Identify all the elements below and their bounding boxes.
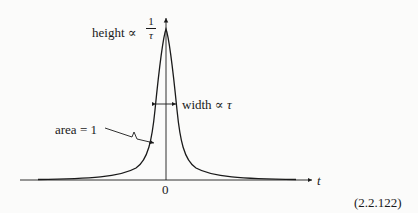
width-label: width ∝ τ — [182, 98, 232, 111]
area-pointer-arrow — [105, 128, 154, 143]
fraction-denominator: τ — [146, 29, 156, 41]
t-axis-label: t — [317, 174, 321, 187]
fraction-numerator: 1 — [146, 16, 156, 29]
width-label-variable: τ — [227, 97, 232, 112]
height-fraction: 1 τ — [146, 16, 156, 41]
origin-label: 0 — [162, 183, 169, 196]
height-label: height ∝ — [92, 26, 137, 39]
width-label-text: width ∝ — [182, 97, 224, 112]
equation-number: (2.2.122) — [354, 196, 402, 209]
area-label: area = 1 — [55, 123, 97, 136]
height-label-text: height ∝ — [92, 25, 137, 40]
